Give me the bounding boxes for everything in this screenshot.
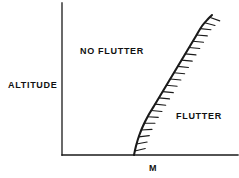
hatch-mark xyxy=(193,41,204,42)
hatch-mark xyxy=(182,60,193,61)
hatch-mark xyxy=(135,149,145,152)
hatch-mark xyxy=(200,29,211,30)
y-axis-label: ALTITUDE xyxy=(8,80,57,90)
flutter-boundary-curve xyxy=(134,15,220,155)
hatch-mark xyxy=(197,35,208,36)
hatch-mark xyxy=(155,104,166,105)
hatch-mark xyxy=(163,92,174,93)
flutter-boundary-diagram: ALTITUDE NO FLUTTER FLUTTER M xyxy=(0,0,239,178)
region-label-no-flutter: NO FLUTTER xyxy=(80,46,144,56)
hatch-mark xyxy=(141,129,152,130)
hatch-mark xyxy=(170,79,181,80)
region-label-flutter: FLUTTER xyxy=(176,111,222,121)
hatch-marks xyxy=(135,17,220,151)
hatch-mark xyxy=(174,73,185,74)
hatch-mark xyxy=(178,66,189,67)
hatch-mark xyxy=(185,54,196,55)
hatch-mark xyxy=(148,117,159,118)
hatch-mark xyxy=(159,98,170,99)
hatch-mark xyxy=(137,142,148,144)
hatch-mark xyxy=(210,17,220,21)
hatch-mark xyxy=(166,85,177,86)
x-axis-label: M xyxy=(149,163,157,173)
hatch-mark xyxy=(205,23,215,26)
axes-group xyxy=(62,3,238,155)
hatch-mark xyxy=(139,136,150,137)
hatch-mark xyxy=(151,110,162,111)
hatch-mark xyxy=(189,48,200,49)
boundary-path xyxy=(134,15,212,155)
